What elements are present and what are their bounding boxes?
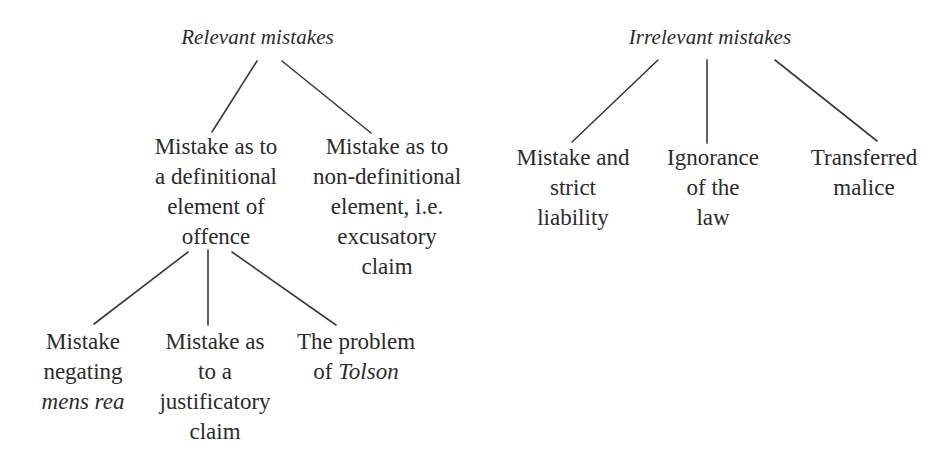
root-node-irrelevant-mistakes: Irrelevant mistakes: [610, 24, 810, 51]
leaf-text-plain-prefix: Mistake negating: [43, 329, 122, 384]
leaf-node-ignorance-of-the-law: Ignorance of the law: [645, 143, 781, 233]
leaf-node-mistake-and-strict-liability: Mistake and strict liability: [498, 143, 648, 233]
leaf-node-mistake-negating-mens-rea: Mistake negating mens rea: [18, 327, 148, 417]
leaf-text-italic-tolson: Tolson: [338, 359, 399, 384]
leaf-node-mistake-justificatory-claim: Mistake as to a justificatory claim: [150, 327, 280, 447]
branch-node-definitional-element: Mistake as to a definitional element of …: [132, 132, 300, 252]
leaf-node-problem-of-tolson: The problem of Tolson: [280, 327, 432, 387]
branch-node-non-definitional-element: Mistake as to non-definitional element, …: [302, 132, 472, 281]
edge-relevant-to-nondefinitional: [282, 61, 371, 133]
leaf-node-transferred-malice: Transferred malice: [786, 143, 942, 203]
edge-irrelevant-to-transferred-malice: [775, 60, 877, 141]
leaf-text-plain-prefix: Mistake as to a justificatory claim: [159, 329, 270, 444]
leaf-text-italic-mens-rea: mens rea: [42, 389, 125, 414]
root-node-relevant-mistakes: Relevant mistakes: [160, 24, 355, 51]
edge-definitional-to-mens-rea: [94, 252, 188, 324]
edge-relevant-to-definitional: [212, 61, 257, 132]
mistakes-taxonomy-diagram: Relevant mistakes Mistake as to a defini…: [0, 0, 942, 450]
edge-irrelevant-to-strict-liability: [572, 60, 658, 142]
